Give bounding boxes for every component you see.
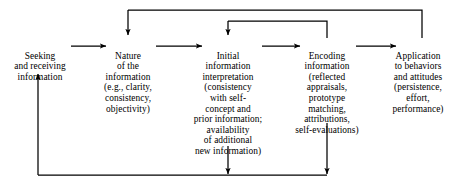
node-application: Application to behaviors and attitudes (… [378,40,458,125]
node-encoding: Encoding information (reflected appraisa… [281,40,373,146]
node-encoding-text: Encoding information (reflected appraisa… [281,51,373,136]
node-application-text: Application to behaviors and attitudes (… [378,51,458,115]
node-initial-interpretation: Initial information interpretation (cons… [178,40,278,167]
feedback-encoding-to-initial [228,21,327,38]
node-nature-text: Nature of the information (e.g., clarity… [90,51,166,115]
process-flow-diagram: Seeking and receiving information Nature… [0,0,458,187]
node-seeking-text: Seeking and receiving information [0,51,80,83]
node-initial-interpretation-text: Initial information interpretation (cons… [178,51,278,157]
node-nature: Nature of the information (e.g., clarity… [90,40,166,125]
node-seeking: Seeking and receiving information [0,40,80,93]
feedback-application-to-nature [128,10,422,38]
